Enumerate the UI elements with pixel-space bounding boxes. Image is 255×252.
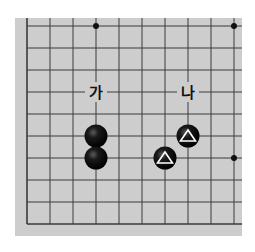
- star-point-icon: [93, 23, 99, 29]
- black-stone: [85, 125, 108, 148]
- go-board: 가나: [0, 0, 255, 252]
- star-point-icon: [231, 23, 237, 29]
- stone-icon: [154, 147, 177, 170]
- board-background: [15, 18, 242, 236]
- black-stone-triangle-marked: [154, 147, 177, 170]
- black-stone: [85, 147, 108, 170]
- label-text: 나: [181, 84, 195, 102]
- stone-icon: [85, 125, 108, 148]
- label-text: 가: [89, 84, 103, 102]
- label-ga: 가: [85, 82, 107, 102]
- star-point-icon: [231, 155, 237, 161]
- stone-icon: [177, 125, 200, 148]
- label-na: 나: [177, 82, 199, 102]
- black-stone-triangle-marked: [177, 125, 200, 148]
- stone-icon: [85, 147, 108, 170]
